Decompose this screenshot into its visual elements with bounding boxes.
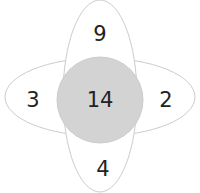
flower-diagram: 9 3 14 2 4 (0, 0, 200, 193)
left-petal-value: 3 (26, 88, 39, 112)
center-value: 14 (87, 88, 114, 112)
bottom-petal-value: 4 (96, 157, 109, 181)
top-petal-value: 9 (93, 22, 106, 46)
right-petal-value: 2 (159, 88, 172, 112)
